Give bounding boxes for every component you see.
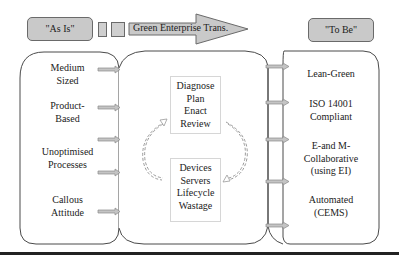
- text-line: Enact: [171, 105, 220, 118]
- right-item-iso-14001: ISO 14001 Compliant: [290, 98, 372, 123]
- left-item-unoptimised-processes: Unoptimised Processes: [25, 146, 110, 171]
- right-item-lean-green: Lean-Green: [290, 68, 372, 81]
- text-line: Servers: [171, 175, 220, 188]
- text-line: E-and M-: [290, 140, 372, 153]
- text-line: Plan: [171, 93, 220, 106]
- text-line: Product-: [30, 100, 105, 113]
- text-line: Automated: [290, 194, 372, 207]
- text-line: Lifecycle: [171, 187, 220, 200]
- text-line: Callous: [30, 194, 105, 207]
- text-line: Collaborative: [290, 153, 372, 166]
- process-box: Diagnose Plan Enact Review: [170, 76, 221, 134]
- text-line: Devices: [171, 162, 220, 175]
- right-item-automated: Automated (CEMS): [290, 194, 372, 219]
- text-line: Processes: [25, 159, 110, 172]
- text-line: Attitude: [30, 207, 105, 220]
- text-line: Medium: [30, 62, 105, 75]
- text-line: Lean-Green: [290, 68, 372, 81]
- left-item-product-based: Product- Based: [30, 100, 105, 125]
- text-line: Review: [171, 118, 220, 131]
- text-line: (using EI): [290, 165, 372, 178]
- left-item-callous-attitude: Callous Attitude: [30, 194, 105, 219]
- text-line: ISO 14001: [290, 98, 372, 111]
- text-line: Wastage: [171, 200, 220, 213]
- text-line: (CEMS): [290, 207, 372, 220]
- text-line: Unoptimised: [25, 146, 110, 159]
- left-item-medium-sized: Medium Sized: [30, 62, 105, 87]
- text-line: Diagnose: [171, 80, 220, 93]
- text-line: Based: [30, 113, 105, 126]
- bottom-divider: [0, 252, 399, 255]
- targets-box: Devices Servers Lifecycle Wastage: [170, 158, 221, 222]
- right-item-collaborative: E-and M- Collaborative (using EI): [290, 140, 372, 178]
- text-line: Sized: [30, 75, 105, 88]
- text-line: Compliant: [290, 111, 372, 124]
